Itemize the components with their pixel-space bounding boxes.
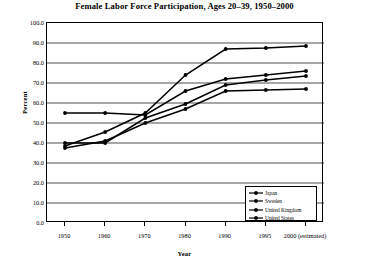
legend-marker-icon [248,214,264,222]
legend-marker-icon [248,189,264,197]
legend-item-united-kingdom: United Kingdom [248,206,314,214]
data-point [264,73,268,77]
data-point [264,88,268,92]
data-point [224,83,228,87]
chart-container: Female Labor Force Participation, Ages 2… [0,0,369,263]
legend-label: United States [264,214,294,222]
data-point [143,121,147,125]
y-axis-label: Percent [21,73,28,133]
y-tick-label: 30.0 [4,159,44,166]
legend-marker-icon [248,206,264,214]
y-tick-label: 90.0 [4,39,44,46]
legend-label: Japan [264,189,277,197]
data-point [264,78,268,82]
data-point [184,102,188,106]
data-point [103,111,107,115]
y-tick-label: 80.0 [4,59,44,66]
y-tick-label: 10.0 [4,199,44,206]
data-point [304,87,308,91]
data-point [264,46,268,50]
series-line-japan [65,89,306,148]
y-tick-label: 20.0 [4,179,44,186]
data-point [184,107,188,111]
data-point [304,44,308,48]
legend-label: Sweden [264,197,282,205]
legend-label: United Kingdom [264,206,301,214]
y-tick-label: 100.0 [4,19,44,26]
legend-marker-icon [248,197,264,205]
y-tick-label: 0.0 [4,219,44,226]
legend-item-japan: Japan [248,189,314,197]
data-point [224,89,228,93]
x-axis-tick-labels: 1950196019701980199019952000 (estimated) [0,232,369,244]
data-point [63,111,67,115]
data-point [103,130,107,134]
data-point [184,89,188,93]
data-point [143,113,147,117]
y-tick-label: 40.0 [4,139,44,146]
chart-title: Female Labor Force Participation, Ages 2… [0,1,369,11]
x-tick-label: 2000 (estimated) [273,232,337,239]
x-axis-label: Year [0,250,369,257]
data-point [224,77,228,81]
data-point [304,74,308,78]
series-line-sweden [65,46,306,146]
data-point [224,47,228,51]
legend-item-sweden: Sweden [248,197,314,205]
data-point [184,73,188,77]
data-point [63,141,67,145]
chart-legend: Japan Sweden United Kingdom United State… [245,186,317,221]
legend-item-united-states: United States [248,214,314,222]
data-point [103,141,107,145]
data-point [304,69,308,73]
